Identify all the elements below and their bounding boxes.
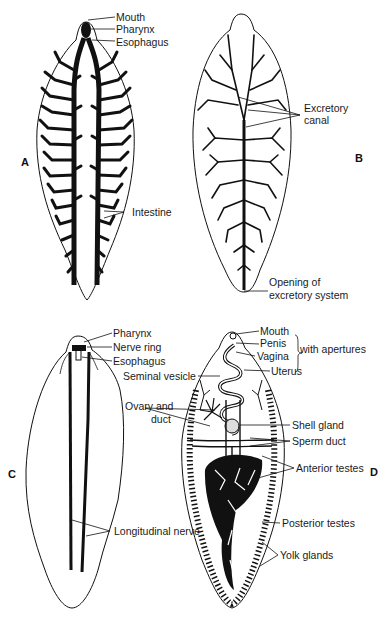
label-b-excretory-system: excretory system: [269, 289, 348, 301]
label-d-uterus: Uterus: [271, 365, 302, 377]
label-c-esophagus: Esophagus: [113, 355, 166, 367]
panel-b-body: [193, 14, 300, 292]
panel-letter-b: B: [355, 152, 363, 164]
label-a-mouth: Mouth: [116, 11, 145, 23]
panel-letter-d: D: [370, 466, 378, 478]
label-d-seminal-vesicle: Seminal vesicle: [123, 370, 196, 382]
label-d-mouth: Mouth: [260, 325, 289, 337]
label-d-duct: duct: [151, 413, 171, 425]
label-d-ovary-and: Ovary and: [125, 400, 173, 412]
label-d-yolk-glands: Yolk glands: [280, 549, 333, 561]
label-c-pharynx: Pharynx: [113, 327, 152, 339]
label-d-with-apertures: with apertures: [300, 343, 366, 355]
label-d-vagina: Vagina: [257, 350, 289, 362]
label-b-excretory: Excretory: [304, 102, 348, 114]
panel-a-body: [37, 17, 134, 300]
label-b-canal: canal: [304, 114, 329, 126]
label-c-nerve-ring: Nerve ring: [113, 341, 161, 353]
panel-letter-a: A: [21, 156, 29, 168]
label-b-opening-of: Opening of: [269, 276, 320, 288]
label-a-esophagus: Esophagus: [116, 36, 169, 48]
label-a-intestine: Intestine: [132, 206, 172, 218]
label-d-shell-gland: Shell gland: [292, 419, 344, 431]
label-d-sperm-duct: Sperm duct: [292, 435, 346, 447]
label-a-pharynx: Pharynx: [116, 23, 155, 35]
label-c-longitudinal-nerve: Longitudinal nerve: [114, 525, 200, 537]
label-d-penis: Penis: [260, 337, 286, 349]
panel-letter-c: C: [8, 468, 16, 480]
label-d-posterior-testes: Posterior testes: [282, 517, 355, 529]
panel-c-body: [26, 333, 124, 608]
label-d-anterior-testes: Anterior testes: [296, 462, 364, 474]
